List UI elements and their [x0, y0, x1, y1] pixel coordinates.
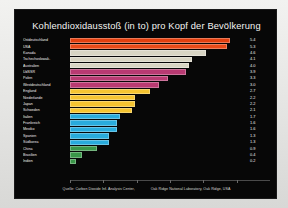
- axis-tick: [70, 180, 71, 183]
- x-axis: [70, 180, 270, 185]
- bar-value-label: 2.2: [250, 96, 270, 100]
- axis-tick: [237, 180, 238, 183]
- bar: [70, 152, 82, 157]
- bar: [70, 63, 189, 68]
- bar: [70, 89, 150, 94]
- bar-track: [70, 108, 248, 113]
- bar-category-label: Polen: [23, 76, 68, 80]
- bar-category-label: Brasilien: [23, 153, 68, 157]
- bar-category-label: Spanien: [23, 134, 68, 138]
- axis-tick: [170, 180, 171, 183]
- bar-value-label: 4.6: [250, 51, 270, 55]
- bar-category-label: Kanada: [23, 51, 68, 55]
- source-note: Quelle: Carbon Dioxide Inf. Analysis Cen…: [15, 187, 277, 191]
- bar: [70, 76, 168, 81]
- bar: [70, 133, 109, 138]
- bar-track: [70, 44, 248, 49]
- bar-track: [70, 38, 248, 43]
- bar: [70, 140, 109, 145]
- bar-category-label: Westdeutschland: [23, 83, 68, 87]
- page-title: Kohlendioxidausstoß (in to) pro Kopf der…: [15, 21, 277, 31]
- bar-category-label: Australien: [23, 64, 68, 68]
- bar-category-label: England: [23, 89, 68, 93]
- bar-value-label: 2.1: [250, 108, 270, 112]
- bar: [70, 114, 120, 119]
- bar-track: [70, 101, 248, 106]
- bar-value-label: 4.0: [250, 64, 270, 68]
- bar-value-label: 1.6: [250, 127, 270, 131]
- bar-track: [70, 146, 248, 151]
- bar-category-label: Ostdeutschland: [23, 38, 68, 42]
- bar: [70, 44, 227, 49]
- bar: [70, 38, 230, 43]
- bar-value-label: 0.4: [250, 153, 270, 157]
- bar: [70, 82, 159, 87]
- bar-track: [70, 76, 248, 81]
- bar: [70, 127, 117, 132]
- bar-track: [70, 69, 248, 74]
- bar-track: [70, 120, 248, 125]
- bar: [70, 108, 132, 113]
- bar-category-label: Indien: [23, 159, 68, 163]
- bar-category-label: Niederlande: [23, 96, 68, 100]
- bar: [70, 146, 97, 151]
- bar-row: Indien0.2: [23, 158, 270, 164]
- bar-track: [70, 127, 248, 132]
- bar-value-label: 5.3: [250, 45, 270, 49]
- bar-category-label: Mexiko: [23, 127, 68, 131]
- bar-value-label: 1.3: [250, 134, 270, 138]
- chart-panel: Kohlendioxidausstoß (in to) pro Kopf der…: [14, 9, 277, 199]
- bar-value-label: 1.6: [250, 121, 270, 125]
- bar-track: [70, 152, 248, 157]
- bar-category-label: Italien: [23, 115, 68, 119]
- bar: [70, 57, 192, 62]
- bar-track: [70, 63, 248, 68]
- source-right-text: Oak Ridge National Laboratory, Oak Ridge…: [151, 187, 231, 191]
- bar-value-label: 3.3: [250, 76, 270, 80]
- bar: [70, 120, 117, 125]
- source-left-text: Quelle: Carbon Dioxide Inf. Analysis Cen…: [63, 187, 135, 191]
- bar-category-label: Frankreich: [23, 121, 68, 125]
- bar-category-label: China: [23, 147, 68, 151]
- bar-category-label: USA: [23, 45, 68, 49]
- axis-tick: [103, 180, 104, 183]
- bar-track: [70, 89, 248, 94]
- bar: [70, 101, 135, 106]
- axis-tick: [137, 180, 138, 183]
- bar-category-label: UdSSR: [23, 70, 68, 74]
- bar-category-label: Südkorea: [23, 140, 68, 144]
- bar-value-label: 0.9: [250, 147, 270, 151]
- bar-category-label: Schweden: [23, 108, 68, 112]
- bar-value-label: 2.7: [250, 89, 270, 93]
- bar-track: [70, 114, 248, 119]
- bar: [70, 159, 76, 164]
- bar-track: [70, 159, 248, 164]
- bar-value-label: 1.3: [250, 140, 270, 144]
- bar-category-label: Japan: [23, 102, 68, 106]
- bar-value-label: 0.2: [250, 159, 270, 163]
- slide-image: Kohlendioxidausstoß (in to) pro Kopf der…: [0, 0, 288, 208]
- bar-track: [70, 50, 248, 55]
- bar-value-label: 1.7: [250, 115, 270, 119]
- bar-track: [70, 140, 248, 145]
- bar-track: [70, 95, 248, 100]
- bar-value-label: 3.9: [250, 70, 270, 74]
- bar-value-label: 3.0: [250, 83, 270, 87]
- bar-value-label: 2.2: [250, 102, 270, 106]
- bar-track: [70, 57, 248, 62]
- bar-value-label: 4.1: [250, 57, 270, 61]
- axis-tick: [203, 180, 204, 183]
- bar: [70, 69, 186, 74]
- bar: [70, 50, 206, 55]
- bar-track: [70, 133, 248, 138]
- bar-category-label: Tschechoslowak.: [23, 57, 68, 61]
- bar-chart-plot: Ostdeutschland5.4USA5.3Kanada4.6Tschecho…: [23, 37, 270, 178]
- bar-track: [70, 82, 248, 87]
- bar: [70, 95, 135, 100]
- bar-value-label: 5.4: [250, 38, 270, 42]
